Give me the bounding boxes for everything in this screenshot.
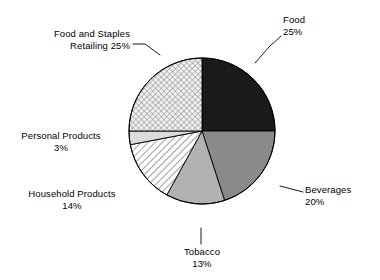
- pie-chart: Food 25% Beverages 20% Tobacco 13% House…: [0, 0, 380, 280]
- slice-label-personal-products-percent: 3%: [6, 142, 116, 154]
- slice-label-household-products-percent: 14%: [16, 200, 128, 212]
- slice-label-food-name: Food: [283, 14, 305, 26]
- pie-slice-food-and-staples-retailing[interactable]: [129, 58, 202, 131]
- slice-label-personal-products: Personal Products 3%: [6, 130, 116, 154]
- slice-label-food-and-staples-retailing-name: Food and Staples: [20, 28, 130, 40]
- slice-label-beverages-name: Beverages: [305, 184, 351, 196]
- slice-label-tobacco-percent: 13%: [172, 258, 232, 270]
- pie-slice-food[interactable]: [202, 58, 275, 131]
- slice-label-tobacco-name: Tobacco: [172, 246, 232, 258]
- slice-label-food: Food 25%: [283, 14, 305, 38]
- leader-line-retailing: [133, 44, 160, 55]
- slice-label-household-products-name: Household Products: [16, 188, 128, 200]
- slice-label-food-and-staples-retailing: Food and Staples Retailing 25%: [20, 28, 130, 52]
- pie-slices: [129, 58, 275, 204]
- slice-label-beverages: Beverages 20%: [305, 184, 351, 208]
- slice-label-food-percent: 25%: [283, 26, 305, 38]
- slice-label-household-products: Household Products 14%: [16, 188, 128, 212]
- slice-label-personal-products-name: Personal Products: [6, 130, 116, 142]
- slice-label-food-and-staples-retailing-percent: Retailing 25%: [20, 40, 130, 52]
- slice-label-beverages-percent: 20%: [305, 196, 351, 208]
- leader-line-food: [255, 36, 281, 63]
- leader-line-beverages: [280, 186, 303, 192]
- slice-label-tobacco: Tobacco 13%: [172, 246, 232, 270]
